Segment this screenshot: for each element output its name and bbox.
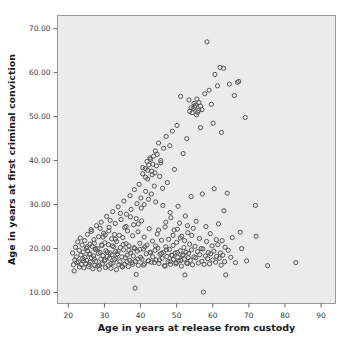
x-tick-label: 60	[208, 311, 218, 320]
y-tick-label: 20.00	[29, 244, 51, 253]
scatter-plot-figure: 2030405060708090 10.0020.0030.0040.0050.…	[0, 0, 352, 356]
x-tick-label: 30	[100, 311, 110, 320]
x-tick-label: 80	[280, 311, 290, 320]
x-tick-label: 90	[316, 311, 326, 320]
y-tick-label: 60.00	[29, 68, 51, 77]
y-tick-label: 40.00	[29, 156, 51, 165]
x-axis-title: Age in years at release from custody	[98, 322, 296, 333]
y-tick-label: 10.00	[29, 288, 51, 297]
y-tick-label: 70.00	[29, 24, 51, 33]
y-axis-title: Age in years at first criminal convictio…	[6, 54, 17, 265]
x-tick-label: 40	[136, 311, 146, 320]
y-tick-label: 50.00	[29, 112, 51, 121]
x-tick-label: 70	[244, 311, 254, 320]
scatter-plot-svg: 2030405060708090 10.0020.0030.0040.0050.…	[0, 0, 352, 356]
y-tick-label: 30.00	[29, 200, 51, 209]
x-tick-label: 50	[172, 311, 182, 320]
x-tick-label: 20	[64, 311, 74, 320]
